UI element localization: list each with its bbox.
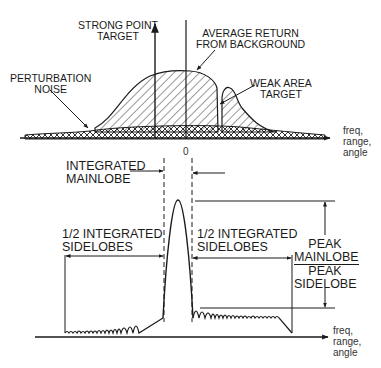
origin-label: 0 xyxy=(183,146,189,157)
label-line: freq, xyxy=(333,325,361,336)
average-return-area xyxy=(95,71,218,132)
radar-return-diagram: STRONG POINT TARGET AVERAGE RETURN FROM … xyxy=(0,0,381,368)
label-line: range, xyxy=(333,336,361,347)
left-half-sidelobes-label: 1/2 INTEGRATED SIDELOBES xyxy=(62,228,162,254)
label-line: MAINLOBE xyxy=(294,251,356,265)
label-line: MAINLOBE xyxy=(66,173,146,186)
integrated-mainlobe-label: INTEGRATED MAINLOBE xyxy=(66,160,146,186)
top-axis-label: freq, range, angle xyxy=(343,125,371,158)
fraction-numerator: MAINLOBE xyxy=(294,251,359,265)
label-line: range, xyxy=(343,136,371,147)
right-sidelobes xyxy=(193,311,292,333)
label-line: angle xyxy=(333,347,361,358)
perturbation-noise-label: PERTURBATION NOISE xyxy=(10,73,91,95)
label-line: TARGET xyxy=(78,31,158,42)
average-return-label: AVERAGE RETURN FROM BACKGROUND xyxy=(196,28,305,50)
label-line: TARGET xyxy=(250,89,312,100)
peak-ratio-label: PEAK MAINLOBE PEAK SIDELOBE xyxy=(294,238,356,291)
weak-area-target-label: WEAK AREA TARGET xyxy=(250,78,312,100)
right-half-sidelobes-label: 1/2 INTEGRATED SIDELOBES xyxy=(197,228,297,254)
bottom-axis-label: freq, range, angle xyxy=(333,325,361,358)
diagram-graphics xyxy=(0,0,381,368)
label-line: NOISE xyxy=(10,84,91,95)
average-return-leader xyxy=(197,50,215,70)
label-line: SIDELOBE xyxy=(294,278,356,291)
mainlobe xyxy=(163,200,193,318)
label-line: freq, xyxy=(343,125,371,136)
label-line: SIDELOBES xyxy=(197,241,297,254)
left-sidelobes xyxy=(65,318,163,333)
label-line: SIDELOBES xyxy=(62,241,162,254)
perturbation-leader xyxy=(50,90,88,128)
strong-point-target-label: STRONG POINT TARGET xyxy=(78,20,158,42)
label-line: angle xyxy=(343,147,371,158)
label-line: FROM BACKGROUND xyxy=(196,39,305,50)
perturbation-noise-band xyxy=(25,126,325,139)
